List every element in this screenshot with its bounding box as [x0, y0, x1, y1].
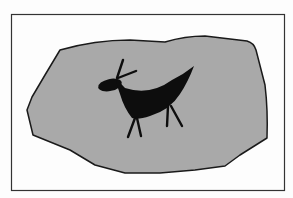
illustration-canvas: Rock painting illustration: a black styl… — [0, 0, 293, 198]
rock-painting-illustration — [0, 0, 293, 198]
